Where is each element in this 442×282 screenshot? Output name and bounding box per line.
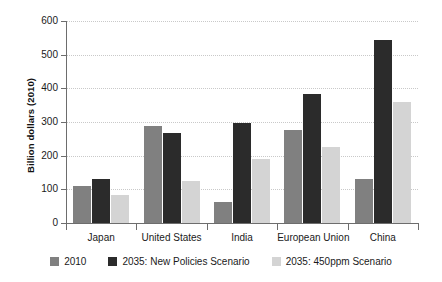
bar-india-2010: [214, 202, 232, 223]
x-axis-separator-1: [136, 223, 137, 230]
legend-label-2: 2035: 450ppm Scenario: [286, 256, 392, 267]
bar-european-union-2010: [284, 130, 302, 223]
bar-japan-2035-450ppm-scenario: [111, 195, 129, 223]
y-tick-mark-100: [61, 189, 67, 190]
bar-india-2035-450ppm-scenario: [252, 159, 270, 223]
y-tick-label-0: 0: [30, 217, 58, 228]
y-tick-label-600: 600: [30, 15, 58, 26]
legend-label-1: 2035: New Policies Scenario: [122, 256, 249, 267]
y-tick-mark-600: [61, 21, 67, 22]
category-label-china: China: [348, 232, 418, 243]
category-label-india: India: [207, 232, 277, 243]
bar-china-2035-new-policies-scenario: [374, 40, 392, 223]
y-tick-mark-400: [61, 88, 67, 89]
y-tick-label-300: 300: [30, 116, 58, 127]
bar-china-2010: [355, 179, 373, 223]
bar-india-2035-new-policies-scenario: [233, 123, 251, 223]
bar-united-states-2035-new-policies-scenario: [163, 133, 181, 223]
bar-united-states-2035-450ppm-scenario: [182, 181, 200, 223]
grid-line-500: [66, 55, 418, 56]
bar-china-2035-450ppm-scenario: [393, 102, 411, 223]
x-axis-line: [66, 223, 419, 224]
legend-item-0: 2010: [50, 256, 86, 267]
legend-item-2: 2035: 450ppm Scenario: [272, 256, 392, 267]
category-label-japan: Japan: [66, 232, 136, 243]
x-axis-separator-3: [277, 223, 278, 230]
legend-swatch-icon-0: [50, 257, 59, 266]
x-axis-separator-0: [66, 223, 67, 230]
bar-japan-2035-new-policies-scenario: [92, 179, 110, 223]
legend-item-1: 2035: New Policies Scenario: [108, 256, 249, 267]
y-tick-mark-300: [61, 122, 67, 123]
bar-european-union-2035-450ppm-scenario: [322, 147, 340, 223]
bar-chart: Billion dollars (2010) 01002003004005006…: [0, 0, 442, 282]
grid-line-600: [66, 21, 418, 22]
bar-united-states-2010: [144, 126, 162, 223]
category-label-european-union: European Union: [277, 232, 347, 243]
category-label-united-states: United States: [136, 232, 206, 243]
chart-legend: 20102035: New Policies Scenario2035: 450…: [0, 256, 442, 267]
bar-european-union-2035-new-policies-scenario: [303, 94, 321, 223]
bar-japan-2010: [73, 186, 91, 223]
legend-label-0: 2010: [64, 256, 86, 267]
y-tick-label-100: 100: [30, 183, 58, 194]
y-tick-mark-500: [61, 55, 67, 56]
legend-swatch-icon-1: [108, 257, 117, 266]
plot-area: [66, 21, 418, 223]
y-tick-mark-200: [61, 156, 67, 157]
y-tick-label-400: 400: [30, 82, 58, 93]
grid-line-400: [66, 88, 418, 89]
y-tick-label-500: 500: [30, 49, 58, 60]
x-axis-separator-4: [348, 223, 349, 230]
x-axis-separator-5: [418, 223, 419, 230]
legend-swatch-icon-2: [272, 257, 281, 266]
x-axis-separator-2: [207, 223, 208, 230]
y-tick-label-200: 200: [30, 150, 58, 161]
